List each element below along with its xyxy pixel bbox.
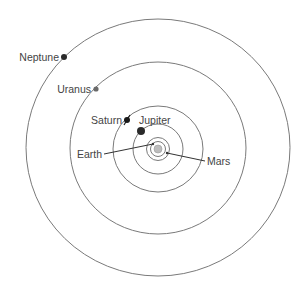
label-mars: Mars [207, 155, 230, 167]
planet-neptune [61, 54, 67, 60]
planet-uranus [93, 86, 98, 91]
label-saturn: Saturn [91, 114, 122, 126]
label-uranus: Uranus [57, 83, 91, 95]
leader-mars [167, 153, 205, 161]
planet-saturn [124, 115, 130, 125]
solar-system-diagram: Neptune Uranus Saturn Jupiter Earth Mars [0, 0, 305, 294]
label-earth: Earth [77, 148, 102, 160]
sun [154, 145, 162, 153]
label-neptune: Neptune [19, 51, 59, 63]
label-jupiter: Jupiter [139, 114, 171, 126]
leader-earth [104, 144, 153, 154]
planet-jupiter [137, 127, 145, 135]
